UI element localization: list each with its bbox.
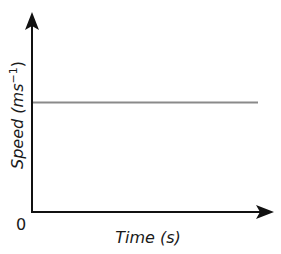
y-axis-label-main: Speed (ms <box>8 84 27 169</box>
x-axis-label: Time (s) <box>115 228 181 247</box>
x-axis-label-text: Time (s) <box>115 228 181 247</box>
y-axis-label-sup: −1 <box>7 67 20 83</box>
origin-label: 0 <box>16 215 26 234</box>
y-axis-label-close: ) <box>8 61 27 67</box>
y-axis-label: Speed (ms−1) <box>7 61 27 169</box>
speed-time-graph: 0 Time (s) Speed (ms−1) <box>0 0 281 254</box>
